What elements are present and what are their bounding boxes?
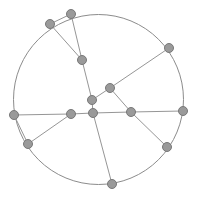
edge-layer [14, 14, 183, 184]
graph-node-upper-left[interactable] [46, 20, 55, 29]
graph-node-lower-right[interactable] [163, 143, 172, 152]
graph-node-inner-mid[interactable] [88, 96, 97, 105]
graph-node-lower-left[interactable] [24, 140, 33, 149]
graph-edge [82, 60, 92, 100]
graph-node-upper-right[interactable] [165, 44, 174, 53]
graph-svg [0, 0, 197, 199]
graph-node-inner-center[interactable] [89, 109, 98, 118]
graph-node-right[interactable] [179, 107, 188, 116]
graph-edge [131, 112, 167, 147]
graph-node-bottom[interactable] [108, 180, 117, 189]
graph-edge [131, 111, 183, 112]
graph-edge [110, 48, 169, 88]
circle-outline-layer [14, 15, 184, 185]
graph-node-inner-left[interactable] [67, 110, 76, 119]
graph-edge [14, 114, 71, 115]
graph-node-inner-right[interactable] [127, 108, 136, 117]
graph-edge [93, 112, 131, 113]
graph-edge [28, 114, 71, 144]
graph-node-top[interactable] [67, 10, 76, 19]
diagram-canvas [0, 0, 197, 199]
node-layer [10, 10, 188, 189]
graph-node-inner-upper[interactable] [78, 56, 87, 65]
graph-node-left[interactable] [10, 111, 19, 120]
circle-outline [14, 15, 184, 185]
graph-node-inner-hub[interactable] [106, 84, 115, 93]
graph-edge [93, 113, 112, 184]
